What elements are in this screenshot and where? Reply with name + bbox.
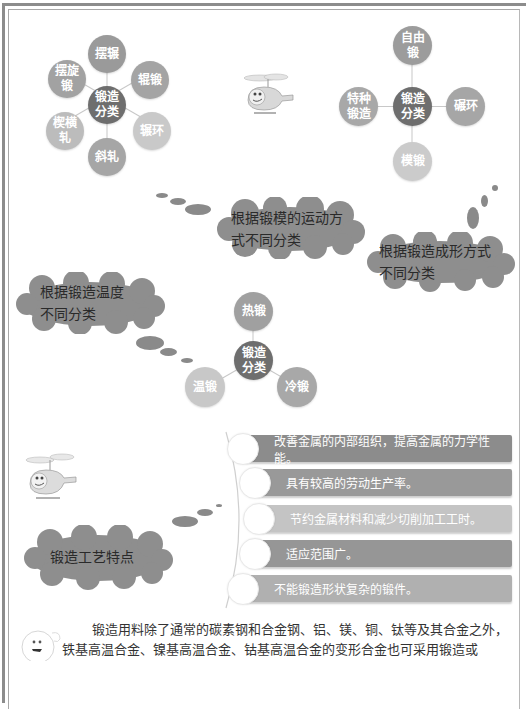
node-ziyouduan: 自由锻: [393, 26, 432, 65]
feature-bar-4: 适应范围广。: [256, 540, 512, 567]
paragraph-line1: 锻造用料除了通常的碳素钢和合金钢、铝、镁、铜、钛等及其合金之外，: [62, 620, 522, 640]
paragraph-line2: 铁基高温合金、镍基高温合金、钴基高温合金的变形合金也可采用锻造或: [62, 640, 522, 660]
node-xiehengzha: 楔横轧: [46, 112, 84, 150]
helicopter-mascot-icon: [22, 450, 82, 504]
cloud-features: 锻造工艺特点: [22, 525, 174, 590]
cloud-motion-line2: 式不同分类: [231, 229, 343, 251]
node-nianhuan-2: 碾环: [446, 87, 485, 126]
cloud-temperature-line1: 根据锻造温度: [40, 281, 124, 303]
node-reduan: 热锻: [234, 292, 273, 331]
cloud-features-text: 锻造工艺特点: [50, 546, 134, 568]
node-nianhuan: 辗环: [133, 112, 171, 150]
node-baixuanduan: 摆旋锻: [48, 60, 86, 98]
cloud-temperature: 根据锻造温度 不同分类: [14, 272, 166, 334]
feature-bullet-5: [227, 573, 259, 605]
feature-bullet-4: [239, 538, 271, 570]
cloud-shaping-line2: 不同分类: [379, 262, 491, 284]
feature-bar-1: 改善金属的内部组织，提高金属的力学性能。: [244, 435, 512, 462]
node-center-temperature: 锻造分类: [234, 341, 273, 380]
helicopter-mascot-icon: [238, 70, 298, 120]
body-paragraph: 锻造用料除了通常的碳素钢和合金钢、铝、镁、铜、钛等及其合金之外，: [62, 620, 522, 640]
feature-bullet-2: [239, 467, 271, 499]
cloud-shaping: 根据锻造成形方式 不同分类: [365, 232, 515, 292]
node-bainian: 摆辗: [88, 35, 126, 73]
feature-bullet-1: [227, 433, 259, 465]
node-center-motion: 锻造分类: [88, 86, 126, 124]
node-lengduan: 冷锻: [277, 367, 317, 407]
cloud-temperature-line2: 不同分类: [40, 303, 124, 325]
body-paragraph-cont: 铁基高温合金、镍基高温合金、钴基高温合金的变形合金也可采用锻造或: [62, 640, 522, 660]
feature-bar-3: 节约金属材料和减少切削加工工时。: [260, 505, 512, 532]
node-wenduan: 温锻: [185, 367, 225, 407]
node-tezhongduanzao: 特种锻造: [339, 87, 378, 126]
smiley-face-mascot-icon: [20, 625, 64, 661]
feature-bar-5: 不能锻造形状复杂的锻件。: [244, 575, 512, 602]
node-xiezha: 斜轧: [88, 138, 126, 176]
cloud-motion-line1: 根据锻模的运动方: [231, 207, 343, 229]
node-moduan: 模锻: [393, 142, 432, 181]
cloud-motion: 根据锻模的运动方 式不同分类: [215, 197, 365, 259]
cloud-shaping-line1: 根据锻造成形方式: [379, 240, 491, 262]
node-center-shaping: 锻造分类: [393, 87, 432, 126]
feature-bar-2: 具有较高的劳动生产率。: [256, 469, 512, 496]
feature-bullet-3: [243, 503, 275, 535]
node-gunduan: 辊锻: [131, 61, 169, 99]
